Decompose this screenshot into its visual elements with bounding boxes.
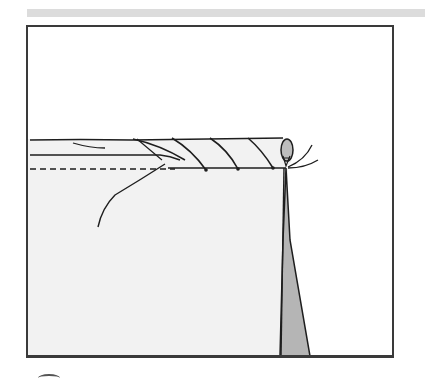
thread-tail-lower [288,160,318,168]
stitch-dot [271,166,275,170]
cropped-marker [38,374,60,382]
stitch-dot [204,168,208,172]
stitch-dot [236,167,240,171]
fabric-panel [28,139,288,356]
hanging-thread [280,168,310,356]
